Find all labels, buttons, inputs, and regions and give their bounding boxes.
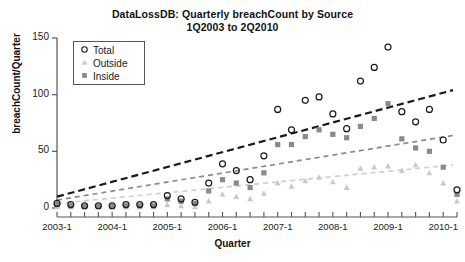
data-point-inside: [275, 142, 280, 147]
data-point-total: [206, 180, 212, 186]
y-tick-label: 0: [15, 201, 49, 212]
data-point-outside: [206, 198, 212, 204]
data-point-outside: [289, 183, 295, 189]
legend-label-inside: Inside: [93, 71, 120, 82]
data-point-inside: [303, 134, 308, 139]
data-point-inside: [220, 177, 225, 182]
data-point-total: [288, 127, 294, 133]
legend-label-outside: Outside: [93, 58, 127, 69]
data-point-inside: [399, 136, 404, 141]
data-point-outside: [440, 180, 446, 186]
data-point-outside: [358, 165, 364, 171]
data-point-inside: [330, 132, 335, 137]
y-tick-label: 100: [15, 88, 49, 99]
data-point-outside: [233, 194, 239, 200]
data-point-total: [385, 44, 391, 50]
data-point-inside: [427, 149, 432, 154]
data-point-inside: [289, 142, 294, 147]
data-point-total: [261, 153, 267, 159]
legend-item-outside: Outside: [79, 57, 127, 70]
data-point-inside: [358, 124, 363, 129]
data-point-outside: [247, 196, 253, 202]
data-point-total: [275, 106, 281, 112]
x-tick-label: 2009-1: [358, 221, 418, 232]
data-point-inside: [316, 127, 321, 132]
data-point-outside: [385, 163, 391, 169]
data-point-inside: [344, 135, 349, 140]
data-point-outside: [220, 191, 226, 197]
x-tick-label: 2007-1: [248, 221, 308, 232]
data-point-inside: [234, 180, 239, 185]
data-point-outside: [454, 198, 460, 204]
data-point-outside: [302, 178, 308, 184]
data-point-total: [220, 161, 226, 167]
chart-figure: DataLossDB: Quarterly breachCount by Sou…: [0, 0, 465, 262]
data-point-outside: [371, 164, 377, 170]
x-tick-label: 2008-1: [303, 221, 363, 232]
data-point-outside: [413, 162, 419, 168]
data-point-total: [247, 177, 253, 183]
data-point-total: [399, 109, 405, 115]
trend-line: [57, 165, 453, 204]
data-point-total: [330, 111, 336, 117]
x-tick-label: 2010-1: [413, 221, 465, 232]
chart-legend: Total Outside Inside: [73, 41, 145, 85]
data-point-outside: [164, 202, 170, 208]
trend-line: [57, 135, 453, 200]
data-point-total: [344, 126, 350, 132]
data-point-inside: [261, 170, 266, 175]
y-tick-label: 150: [15, 31, 49, 42]
data-point-inside: [372, 116, 377, 121]
data-point-inside: [385, 101, 390, 106]
data-point-outside: [261, 190, 267, 196]
x-tick-label: 2005-1: [137, 221, 197, 232]
legend-label-total: Total: [93, 45, 114, 56]
data-point-total: [371, 64, 377, 70]
data-point-outside: [330, 179, 336, 185]
filled-square-icon: [79, 71, 90, 82]
data-point-inside: [413, 145, 418, 150]
data-point-total: [316, 94, 322, 100]
data-point-inside: [441, 165, 446, 170]
legend-item-inside: Inside: [79, 70, 120, 83]
data-point-total: [413, 119, 419, 125]
data-point-outside: [344, 185, 350, 191]
trend-line: [57, 90, 453, 197]
filled-triangle-icon: [79, 58, 90, 69]
x-tick-label: 2003-1: [27, 221, 87, 232]
data-point-inside: [206, 188, 211, 193]
x-tick-label: 2004-1: [82, 221, 142, 232]
data-point-total: [426, 106, 432, 112]
legend-item-total: Total: [79, 44, 114, 57]
y-tick-label: 50: [15, 144, 49, 155]
data-point-total: [357, 78, 363, 84]
open-circle-icon: [79, 45, 90, 56]
data-point-outside: [427, 170, 433, 176]
data-point-total: [302, 97, 308, 103]
data-point-inside: [248, 185, 253, 190]
x-tick-label: 2006-1: [193, 221, 253, 232]
